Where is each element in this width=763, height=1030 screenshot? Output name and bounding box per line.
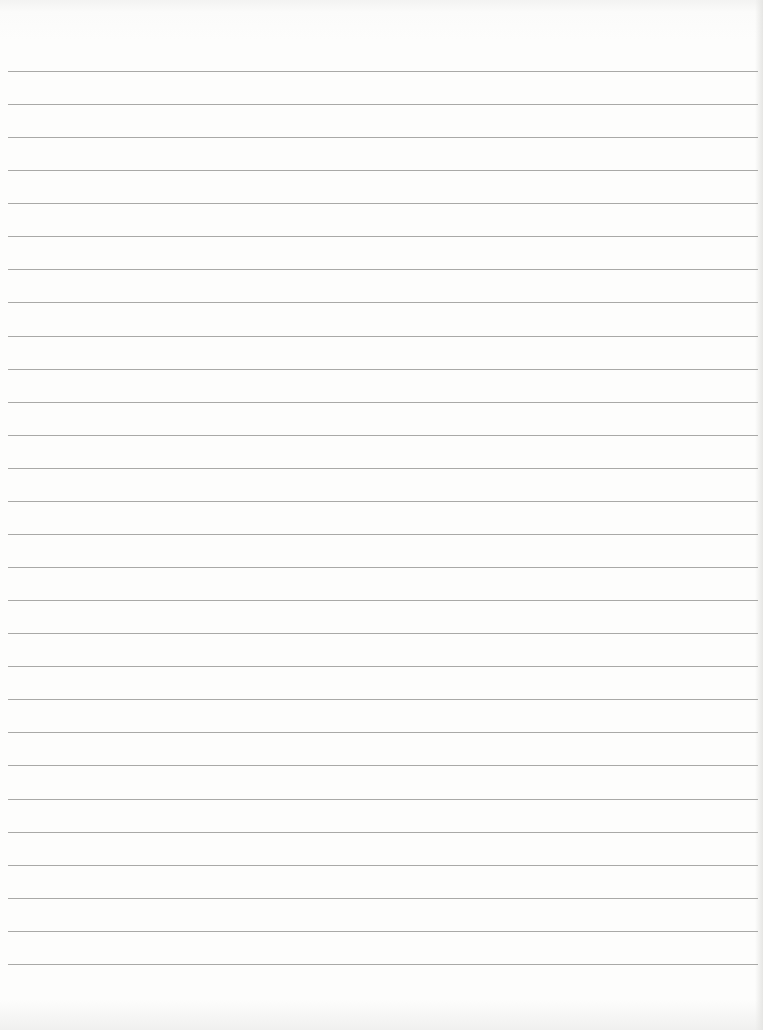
ruled-line: [8, 964, 758, 965]
ruled-line: [8, 170, 758, 171]
ruled-line: [8, 600, 758, 601]
ruled-line: [8, 402, 758, 403]
lined-paper-page: [0, 0, 763, 1030]
ruled-line: [8, 865, 758, 866]
ruled-line: [8, 765, 758, 766]
ruled-line: [8, 369, 758, 370]
ruled-line: [8, 137, 758, 138]
ruled-line: [8, 71, 758, 72]
ruled-line: [8, 336, 758, 337]
ruled-line: [8, 699, 758, 700]
ruled-line: [8, 567, 758, 568]
ruled-line: [8, 302, 758, 303]
ruled-line: [8, 832, 758, 833]
ruled-line: [8, 501, 758, 502]
ruled-line: [8, 468, 758, 469]
ruled-line: [8, 931, 758, 932]
paper-edge-shadow: [755, 0, 763, 1030]
ruled-line: [8, 104, 758, 105]
ruled-line: [8, 799, 758, 800]
ruled-line: [8, 269, 758, 270]
ruled-line: [8, 236, 758, 237]
ruled-line: [8, 203, 758, 204]
ruled-line: [8, 534, 758, 535]
ruled-line: [8, 898, 758, 899]
ruled-line: [8, 633, 758, 634]
ruled-line: [8, 435, 758, 436]
ruled-line: [8, 732, 758, 733]
ruled-line: [8, 666, 758, 667]
